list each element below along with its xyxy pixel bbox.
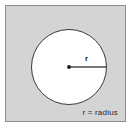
circle-diagram-svg [6, 6, 127, 123]
legend-caption: r = radius [82, 108, 118, 118]
center-point-dot [67, 65, 71, 69]
diagram-panel: r r = radius [5, 5, 126, 122]
circle-radius-figure: r r = radius [0, 0, 133, 131]
radius-symbol-label: r [85, 54, 88, 63]
